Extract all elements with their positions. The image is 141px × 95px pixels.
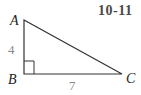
vertex-label-c: C bbox=[126, 72, 135, 86]
right-angle-marker bbox=[24, 61, 34, 74]
side-label-ab: 4 bbox=[8, 43, 15, 56]
triangle-outline bbox=[24, 20, 122, 74]
vertex-label-a: A bbox=[10, 14, 19, 28]
vertex-label-b: B bbox=[8, 73, 17, 87]
side-label-bc: 7 bbox=[69, 79, 76, 92]
